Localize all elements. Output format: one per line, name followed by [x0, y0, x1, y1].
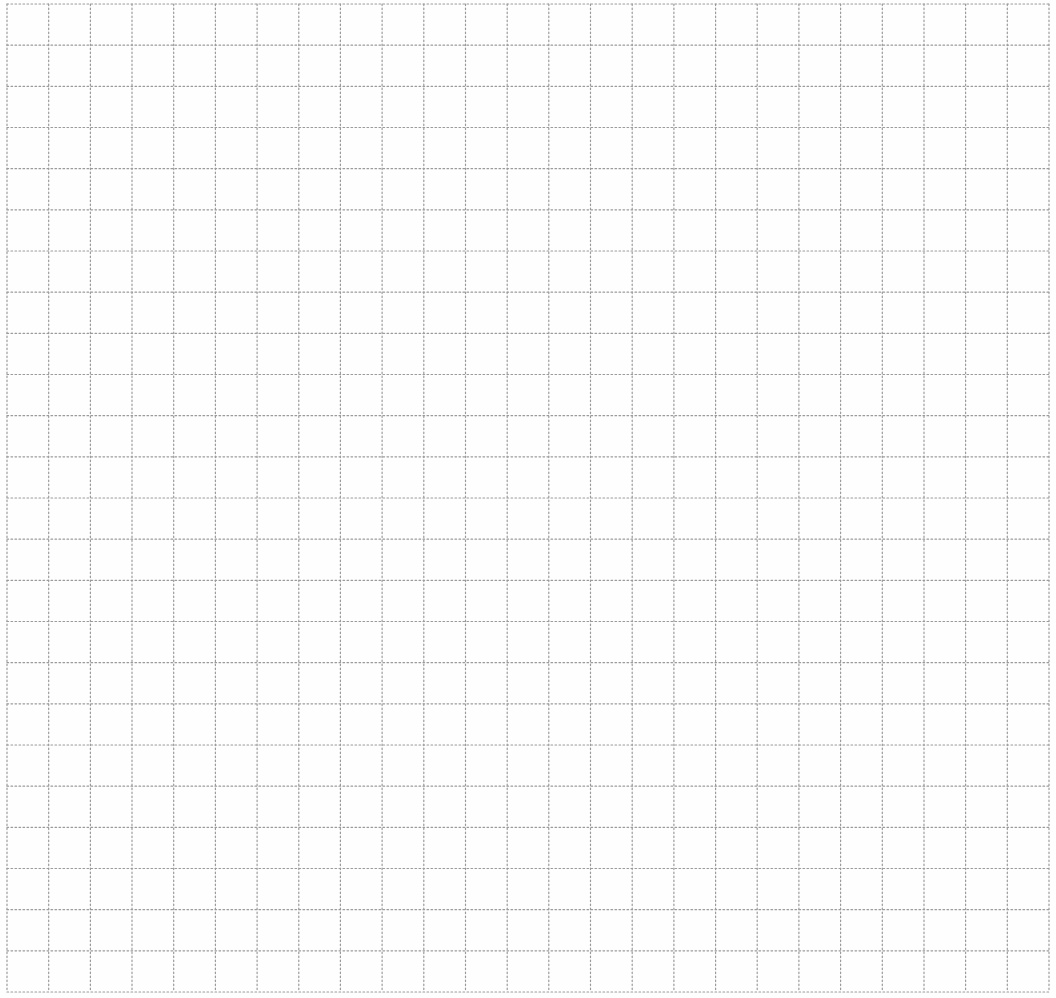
grid-paper [0, 0, 1056, 998]
dotted-grid [0, 0, 1056, 998]
